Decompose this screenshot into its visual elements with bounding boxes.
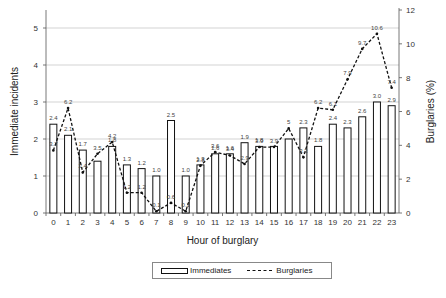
y-tick-label: 1	[34, 172, 39, 181]
x-tick-label: 14	[255, 218, 264, 227]
bar-immediates	[212, 154, 219, 213]
x-tick-label: 9	[184, 218, 189, 227]
bar-value-label: 2.3	[343, 119, 352, 125]
bar-value-label: 1.8	[314, 137, 323, 143]
y2-tick-label: 12	[406, 6, 415, 15]
bar-value-label: 2.1	[64, 126, 73, 132]
legend-label-immediates: Immediates	[190, 266, 231, 275]
line-value-label: 3.5	[93, 145, 102, 151]
bar-value-label: 1.0	[152, 167, 161, 173]
line-value-label: 7.4	[387, 79, 396, 85]
line-value-label: 6.1	[329, 101, 338, 107]
legend-item-burglaries: Burglaries	[239, 266, 312, 275]
x-tick-label: 16	[284, 218, 293, 227]
bar-immediates	[197, 165, 204, 213]
x-tick-label: 23	[387, 218, 396, 227]
bar-immediates	[270, 146, 277, 213]
bar-value-label: 2.3	[299, 119, 308, 125]
x-tick-label: 8	[169, 218, 174, 227]
line-value-label: 1.2	[137, 184, 146, 190]
line-value-label: 3.9	[255, 138, 264, 144]
dashed-line-swatch-icon	[247, 270, 272, 271]
bar-value-label: 1.3	[123, 156, 132, 162]
y2-tick-label: 8	[406, 74, 411, 83]
bar-immediates	[329, 124, 336, 213]
bar-immediates	[226, 154, 233, 213]
bar-swatch-icon	[161, 268, 188, 274]
bar-value-label: 2.9	[387, 97, 396, 103]
y-axis-title: Immediate incidents	[9, 67, 20, 156]
burglaries-point	[273, 146, 276, 149]
bar-immediates	[373, 102, 380, 213]
bar-immediates	[315, 146, 322, 213]
x-tick-label: 11	[211, 218, 220, 227]
burglaries-point	[52, 149, 55, 152]
line-value-label: 3.6	[211, 143, 220, 149]
burglaries-line	[53, 34, 391, 212]
burglaries-point	[287, 127, 290, 130]
burglaries-point	[302, 156, 305, 159]
burglaries-point	[243, 163, 246, 166]
legend-item-immediates: Immediates	[161, 266, 231, 275]
bar-immediates	[256, 146, 263, 213]
line-value-label: 3.3	[299, 148, 308, 154]
bar-immediates	[359, 117, 366, 213]
burglaries-point	[81, 171, 84, 174]
burglaries-point	[332, 109, 335, 112]
bar-value-label: 1.7	[79, 141, 88, 147]
burglaries-point	[317, 107, 320, 110]
x-tick-label: 4	[110, 218, 115, 227]
x-tick-label: 0	[51, 218, 56, 227]
bar-immediates	[65, 135, 72, 213]
x-tick-label: 10	[196, 218, 205, 227]
burglaries-point	[170, 202, 173, 205]
x-tick-label: 22	[372, 218, 381, 227]
burglaries-point	[199, 164, 202, 167]
bar-value-label: 3.0	[373, 93, 382, 99]
bar-value-label: 1.2	[137, 160, 146, 166]
y2-axis-title: Burglaries (%)	[425, 80, 436, 143]
bar-immediates	[50, 124, 57, 213]
x-tick-label: 6	[139, 218, 144, 227]
line-value-label: 1.2	[123, 184, 132, 190]
line-value-label: 2.9	[240, 155, 249, 161]
x-tick-label: 19	[328, 218, 337, 227]
burglaries-point	[140, 191, 143, 194]
y2-tick-label: 2	[406, 175, 411, 184]
line-value-label: 2.4	[79, 163, 88, 169]
bar-value-label: 2.4	[49, 115, 58, 121]
burglaries-point	[67, 107, 70, 110]
x-tick-label: 21	[358, 218, 367, 227]
x-tick-label: 12	[225, 218, 234, 227]
y-tick-label: 2	[34, 135, 39, 144]
line-value-label: 5	[287, 119, 291, 125]
burglaries-point	[346, 78, 349, 81]
line-value-label: 0.6	[167, 194, 176, 200]
bar-value-label: 2.5	[167, 112, 176, 118]
x-tick-label: 15	[270, 218, 279, 227]
x-tick-label: 1	[66, 218, 71, 227]
bar-value-label: 1.9	[240, 134, 249, 140]
combo-chart: 0123450246810120123456789101112131415161…	[0, 0, 446, 298]
bar-value-label: 2.4	[329, 115, 338, 121]
burglaries-point	[390, 87, 393, 90]
burglaries-point	[96, 152, 99, 155]
y2-tick-label: 6	[406, 108, 411, 117]
bar-value-label: 2.6	[358, 108, 367, 114]
y2-tick-label: 4	[406, 141, 411, 150]
burglaries-point	[214, 151, 217, 154]
bar-immediates	[388, 106, 395, 213]
bar-value-label: 1.0	[182, 167, 191, 173]
bar-immediates	[109, 146, 116, 213]
line-value-label: 10.6	[371, 25, 383, 31]
x-tick-label: 7	[154, 218, 159, 227]
line-value-label: 7.9	[343, 70, 352, 76]
y-tick-label: 0	[34, 209, 39, 218]
bar-immediates	[138, 169, 145, 213]
burglaries-point	[155, 210, 158, 213]
line-value-label: 4.2	[108, 133, 117, 139]
y-tick-label: 3	[34, 98, 39, 107]
bar-immediates	[344, 128, 351, 213]
line-value-label: 6.2	[314, 99, 323, 105]
x-tick-label: 18	[314, 218, 323, 227]
